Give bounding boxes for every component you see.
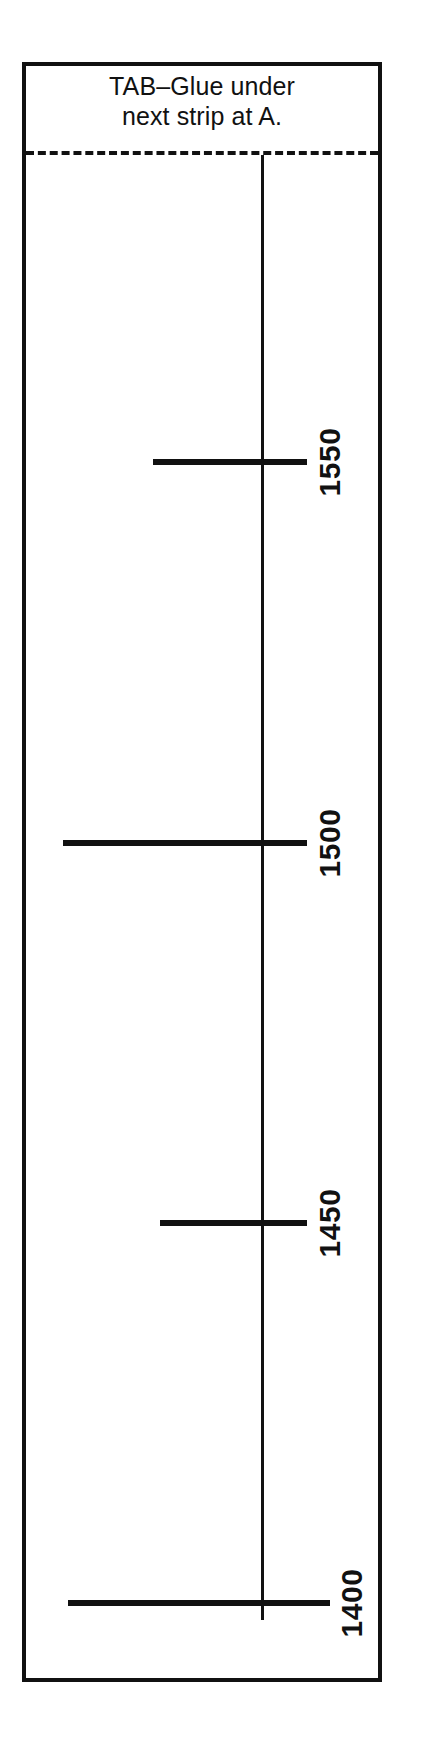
tick-rule — [68, 1600, 330, 1606]
tick-label: 1400 — [335, 1569, 369, 1638]
header-caption-line-2: next strip at A. — [22, 102, 382, 132]
tick-rule — [153, 459, 307, 465]
tick-label: 1450 — [313, 1189, 347, 1258]
figure-canvas: TAB–Glue under next strip at A. 15501500… — [0, 0, 439, 1739]
tick-rule — [160, 1220, 307, 1226]
header-caption-line-1: TAB–Glue under — [22, 72, 382, 102]
header-caption: TAB–Glue under next strip at A. — [22, 72, 382, 131]
center-vertical-axis — [261, 155, 264, 1620]
glue-fold-dashed-line — [26, 151, 378, 155]
tick-label: 1550 — [313, 428, 347, 497]
tick-rule — [63, 840, 307, 846]
tick-label: 1500 — [313, 809, 347, 878]
